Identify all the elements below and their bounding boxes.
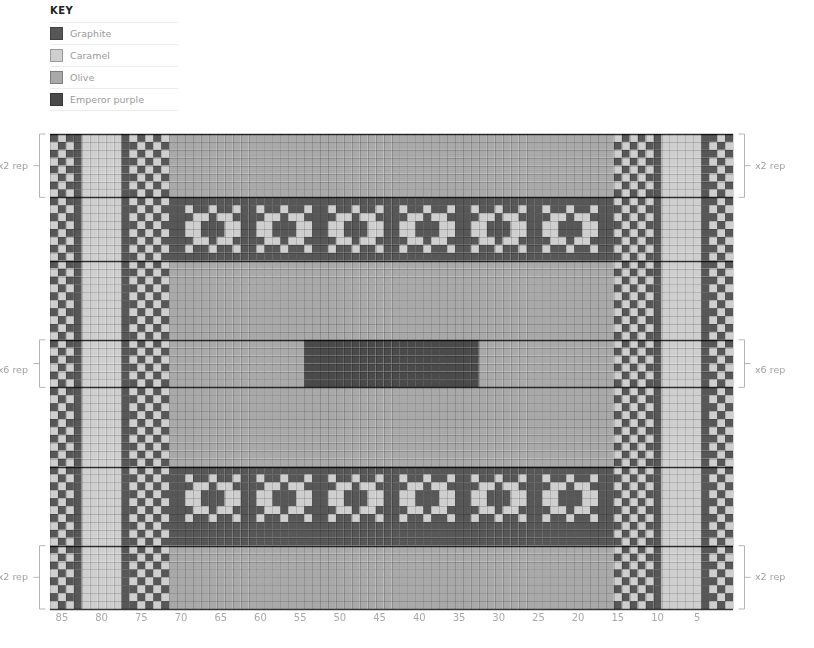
x-tick-label: 75 (135, 612, 148, 623)
x-tick-label: 80 (95, 612, 108, 623)
x-tick-label: 65 (214, 612, 227, 623)
rep-label-right-bot: x2 rep (755, 571, 785, 582)
x-tick-label: 85 (56, 612, 69, 623)
x-tick-label: 45 (373, 612, 386, 623)
x-tick-label: 15 (611, 612, 624, 623)
rep-label-right-mid: x6 rep (755, 364, 785, 375)
x-tick-label: 35 (453, 612, 466, 623)
x-tick-label: 25 (532, 612, 545, 623)
rep-label-right-top: x2 rep (755, 160, 785, 171)
x-tick-label: 20 (572, 612, 585, 623)
x-tick-label: 60 (254, 612, 267, 623)
rep-label-left-mid: x6 rep (0, 364, 28, 375)
x-tick-label: 40 (413, 612, 426, 623)
x-tick-label: 55 (294, 612, 307, 623)
x-tick-label: 5 (694, 612, 700, 623)
rep-label-left-bot: x2 rep (0, 571, 28, 582)
rep-label-left-top: x2 rep (0, 160, 28, 171)
x-tick-label: 70 (175, 612, 188, 623)
x-tick-label: 50 (334, 612, 347, 623)
x-tick-label: 30 (492, 612, 505, 623)
x-tick-label: 10 (651, 612, 664, 623)
chart-grid (0, 0, 814, 648)
